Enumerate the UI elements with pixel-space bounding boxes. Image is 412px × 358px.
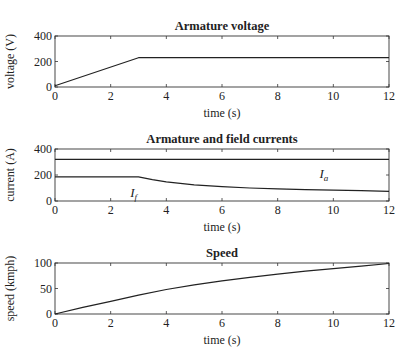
subplot-speed: Speed time (s) speed (kmph) 024681012050… xyxy=(3,246,395,347)
x-tick-label: 12 xyxy=(383,89,395,103)
plot-title: Speed xyxy=(206,246,238,260)
x-tick-label: 10 xyxy=(327,89,339,103)
x-tick-label: 6 xyxy=(219,89,225,103)
x-tick-label: 12 xyxy=(383,203,395,217)
x-tick-label: 8 xyxy=(275,89,281,103)
annotation-label: If xyxy=(129,185,138,202)
axes-box xyxy=(55,36,389,87)
x-tick-label: 10 xyxy=(327,203,339,217)
annotation-label: Ia xyxy=(318,166,328,183)
subplot-armature-voltage: Armature voltage time (s) voltage (V) 02… xyxy=(3,19,395,120)
y-axis-label: voltage (V) xyxy=(3,34,17,89)
figure: Armature voltage time (s) voltage (V) 02… xyxy=(0,0,412,358)
x-tick-label: 4 xyxy=(163,203,169,217)
y-axis-label: speed (kmph) xyxy=(3,256,17,322)
x-tick-label: 4 xyxy=(163,89,169,103)
x-tick-label: 0 xyxy=(52,203,58,217)
series-line-if xyxy=(55,177,389,191)
x-tick-label: 6 xyxy=(219,316,225,330)
x-axis-label: time (s) xyxy=(204,220,241,234)
x-tick-label: 2 xyxy=(108,316,114,330)
x-tick-label: 8 xyxy=(275,316,281,330)
y-tick-label: 50 xyxy=(40,282,52,296)
x-tick-label: 0 xyxy=(52,89,58,103)
x-tick-label: 0 xyxy=(52,316,58,330)
y-tick-label: 200 xyxy=(34,55,52,69)
subplot-armature-field-currents: Armature and field currents time (s) cur… xyxy=(3,132,395,234)
plot-title: Armature voltage xyxy=(175,19,270,33)
x-axis-label: time (s) xyxy=(204,333,241,347)
y-tick-label: 400 xyxy=(34,142,52,156)
x-tick-label: 6 xyxy=(219,203,225,217)
x-tick-label: 2 xyxy=(108,203,114,217)
y-tick-label: 0 xyxy=(46,307,52,321)
plot-title: Armature and field currents xyxy=(146,132,297,146)
y-axis-label: current (A) xyxy=(3,148,17,202)
x-tick-label: 4 xyxy=(163,316,169,330)
y-tick-label: 200 xyxy=(34,168,52,182)
y-tick-label: 0 xyxy=(46,80,52,94)
axes-box xyxy=(55,263,389,314)
x-tick-label: 12 xyxy=(383,316,395,330)
y-tick-label: 400 xyxy=(34,29,52,43)
x-axis-label: time (s) xyxy=(204,106,241,120)
x-tick-label: 10 xyxy=(327,316,339,330)
series-line-speed xyxy=(55,264,389,315)
series-line-va xyxy=(55,58,389,86)
axes-box xyxy=(55,149,389,201)
y-tick-label: 0 xyxy=(46,194,52,208)
x-tick-label: 8 xyxy=(275,203,281,217)
y-tick-label: 100 xyxy=(34,256,52,270)
x-tick-label: 2 xyxy=(108,89,114,103)
